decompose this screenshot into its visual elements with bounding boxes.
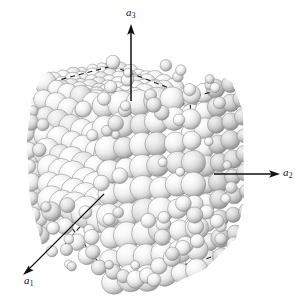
sphere	[222, 76, 239, 93]
sphere	[204, 137, 213, 146]
axis-label-a1-base: a	[24, 274, 30, 286]
sphere	[221, 130, 240, 149]
sphere	[104, 81, 117, 94]
sphere	[226, 237, 241, 252]
sphere	[21, 159, 35, 173]
sphere	[236, 145, 253, 162]
axis-label-a2-base: a	[283, 166, 289, 178]
sphere	[93, 175, 109, 191]
sphere	[60, 198, 75, 213]
sphere	[112, 168, 128, 184]
sphere	[146, 97, 161, 112]
axis-label-a1: a1	[24, 275, 33, 286]
axis-label-a2-sub: 2	[289, 171, 293, 180]
axis-label-a2: a2	[283, 167, 292, 178]
sphere	[67, 262, 76, 271]
sphere	[185, 259, 208, 282]
sphere	[210, 214, 224, 228]
sphere	[108, 115, 124, 131]
sphere	[221, 194, 231, 204]
sphere	[160, 60, 172, 72]
sphere	[32, 258, 47, 273]
sphere	[158, 158, 167, 167]
sphere	[237, 163, 255, 181]
sphere	[181, 150, 205, 174]
sphere	[86, 245, 100, 259]
sphere	[64, 234, 74, 244]
sphere	[166, 247, 180, 261]
axis-label-a3-sub: 3	[132, 11, 136, 20]
sphere	[213, 248, 231, 266]
sphere	[239, 239, 257, 257]
sphere	[97, 92, 110, 105]
sphere	[184, 84, 196, 96]
sphere	[239, 203, 256, 220]
sphere	[42, 266, 54, 278]
sphere	[112, 130, 120, 138]
sphere	[147, 273, 161, 287]
sphere	[175, 167, 184, 176]
sphere	[213, 97, 225, 109]
sphere	[176, 65, 187, 76]
sphere	[131, 261, 140, 270]
sphere	[238, 220, 256, 238]
crystal-structure-figure: a1 a2 a3	[0, 0, 302, 305]
sphere	[215, 233, 227, 245]
sphere	[60, 243, 72, 255]
axis-label-a3-base: a	[126, 6, 132, 18]
sphere	[24, 207, 40, 223]
sphere	[46, 246, 57, 257]
axis-label-a3: a3	[126, 7, 135, 18]
sphere	[25, 222, 42, 239]
sphere	[120, 101, 130, 111]
sphere	[91, 260, 106, 275]
sphere	[227, 243, 245, 261]
sphere	[176, 196, 192, 212]
sphere	[240, 184, 254, 198]
sphere	[105, 260, 114, 269]
sphere	[87, 130, 98, 141]
sphere	[237, 129, 251, 143]
sphere	[234, 73, 249, 88]
sphere	[113, 207, 124, 218]
sphere	[24, 191, 38, 205]
sphere	[103, 213, 115, 225]
sphere	[158, 211, 170, 223]
sphere	[23, 114, 39, 130]
sphere	[41, 202, 51, 212]
sphere	[225, 182, 237, 194]
sphere	[210, 83, 220, 93]
sphere	[106, 55, 120, 69]
sphere	[181, 172, 206, 197]
sphere	[84, 230, 99, 245]
sphere	[47, 222, 60, 235]
sphere	[43, 280, 53, 290]
sphere	[223, 161, 232, 170]
sphere	[173, 114, 185, 126]
sphere	[75, 101, 91, 117]
sphere	[37, 119, 49, 131]
sphere	[154, 229, 170, 245]
sphere	[48, 58, 58, 68]
axis-label-a1-sub: 1	[30, 279, 34, 288]
sphere	[234, 109, 251, 126]
sphere	[205, 75, 214, 84]
sphere	[226, 207, 241, 222]
sphere	[32, 143, 46, 157]
sphere	[233, 90, 250, 107]
sphere	[141, 213, 156, 228]
sphere	[26, 239, 42, 255]
sphere	[190, 234, 204, 248]
sphere	[182, 131, 201, 150]
crystal-structure-canvas	[0, 0, 302, 305]
